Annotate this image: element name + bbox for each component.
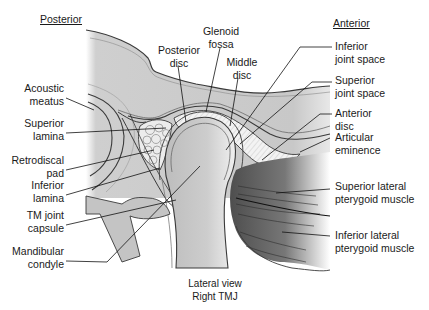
label-tm-joint-capsule: TM jointcapsule bbox=[27, 209, 64, 234]
label-glenoid-fossa: Glenoidfossa bbox=[198, 25, 244, 50]
label-inferior-lateral-pterygoid: Inferior lateralpterygoid muscle bbox=[335, 229, 414, 254]
label-superior-lamina: Superiorlamina bbox=[24, 117, 64, 142]
label-inferior-lamina: Inferiorlamina bbox=[31, 179, 64, 204]
label-acoustic-meatus: Acousticmeatus bbox=[24, 82, 64, 107]
lateral-pterygoid-muscle bbox=[230, 152, 330, 270]
label-superior-lateral-pterygoid: Superior lateralpterygoid muscle bbox=[335, 180, 414, 205]
label-mandibular-condyle: Mandibularcondyle bbox=[12, 245, 64, 270]
heading-posterior: Posterior bbox=[40, 13, 82, 25]
figure-caption: Lateral viewRight TMJ bbox=[155, 278, 275, 303]
mastoid-process bbox=[86, 196, 170, 262]
label-articular-eminence: Articulareminence bbox=[335, 131, 381, 156]
label-posterior-disc: Posteriordisc bbox=[155, 44, 203, 69]
heading-anterior: Anterior bbox=[333, 17, 370, 29]
label-inferior-joint-space: Inferiorjoint space bbox=[335, 40, 385, 65]
label-anterior-disc: Anteriordisc bbox=[335, 107, 372, 132]
label-superior-joint-space: Superiorjoint space bbox=[335, 74, 385, 99]
label-retrodiscal-pad: Retrodiscalpad bbox=[11, 154, 64, 179]
label-middle-disc: Middledisc bbox=[222, 56, 262, 81]
